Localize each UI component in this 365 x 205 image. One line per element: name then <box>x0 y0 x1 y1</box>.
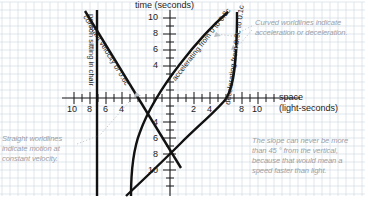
x-tick-10-right: 10 <box>252 105 262 114</box>
x-tick-4-left: 4 <box>119 105 124 114</box>
worldline-accelerating <box>131 12 228 196</box>
note-slope-line3: because that would mean a <box>252 156 342 166</box>
y-tick-6-lower: 6 <box>153 134 158 143</box>
y-tick-4-upper: 4 <box>153 61 158 70</box>
note-slope-line1: The slope can never be more <box>252 136 348 146</box>
y-tick-6-upper: 6 <box>153 45 158 54</box>
y-tick-4-lower: 4 <box>153 118 158 127</box>
note-curved-worldlines: Curved worldlines indicate acceleration … <box>255 18 363 37</box>
x-tick-8-right: 8 <box>239 105 244 114</box>
x-tick-2-right: 2 <box>191 105 196 114</box>
x-axis-title-line1: space <box>279 92 303 102</box>
y-tick-10-lower: 10 <box>148 166 158 175</box>
note-straight-worldlines-line3: constant velocity. <box>2 154 58 164</box>
y-axis-title: time (seconds) <box>135 0 194 10</box>
x-tick-8-left: 8 <box>87 105 92 114</box>
spacetime-diagram-figure: time (seconds) space (light-seconds) 10 … <box>0 0 365 205</box>
x-tick-6-left: 6 <box>103 105 108 114</box>
y-tick-10-upper: 10 <box>148 13 158 22</box>
x-axis-title-line2: (light-seconds) <box>279 103 338 113</box>
x-tick-10-left: 10 <box>67 105 77 114</box>
x-tick-4-right: 4 <box>207 105 212 114</box>
note-straight-worldlines-line1: Straight worldlines <box>2 134 62 144</box>
y-tick-8-upper: 8 <box>153 29 158 38</box>
y-tick-8-lower: 8 <box>153 150 158 159</box>
note-straight-worldlines-line2: indicate motion at <box>2 144 60 154</box>
note-slope-line4: speed faster than light. <box>252 166 326 176</box>
note-slope-line2: than 45 ° from the vertical, <box>252 146 338 156</box>
